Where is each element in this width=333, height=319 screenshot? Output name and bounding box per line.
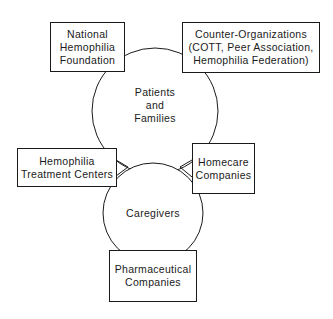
pharmaceutical-companies-box: Pharmaceutical Companies — [109, 250, 197, 302]
box-text: Foundation — [60, 54, 116, 67]
caregivers-label: Caregivers — [113, 205, 193, 221]
circle-text: Patients — [135, 86, 175, 99]
box-text: Companies — [125, 276, 181, 289]
circle-text: Caregivers — [126, 207, 180, 220]
hemophilia-treatment-centers-box: Hemophilia Treatment Centers — [17, 148, 117, 187]
patients-families-label: Patients and Families — [115, 80, 195, 130]
national-hemophilia-foundation-box: National Hemophilia Foundation — [50, 22, 125, 72]
circle-text: and — [146, 99, 164, 112]
box-text: (COTT, Peer Association, — [188, 41, 313, 54]
box-text: National — [67, 28, 108, 41]
box-text: Treatment Centers — [21, 168, 113, 181]
box-text: Pharmaceutical — [115, 263, 192, 276]
homecare-companies-box: Homecare Companies — [192, 143, 255, 194]
counter-organizations-box: Counter-Organizations (COTT, Peer Associ… — [182, 22, 320, 73]
box-text: Counter-Organizations — [195, 28, 307, 41]
box-text: Hemophilia — [60, 41, 116, 54]
box-text: Hemophilia — [39, 155, 95, 168]
circle-text: Families — [134, 112, 176, 125]
box-text: Hemophilia Federation) — [193, 54, 309, 67]
box-text: Companies — [196, 169, 252, 182]
box-text: Homecare — [198, 156, 249, 169]
